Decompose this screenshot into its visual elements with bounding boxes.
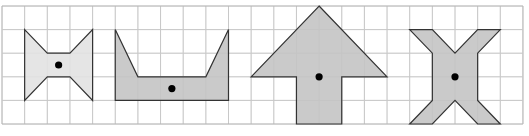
center-dot [451, 73, 458, 80]
arrow-shape [251, 6, 387, 124]
bowtie-shape [25, 30, 93, 101]
bucket-shape [115, 30, 228, 101]
arrow-shape-polygon [251, 6, 387, 124]
grid-figure [0, 0, 529, 136]
center-dot [168, 85, 175, 92]
center-dot [316, 73, 323, 80]
center-dot [55, 61, 62, 68]
shapes [25, 6, 501, 124]
